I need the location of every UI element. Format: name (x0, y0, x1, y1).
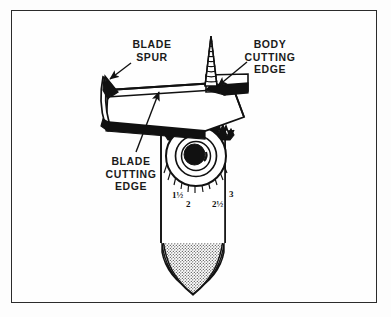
feed-screw-point (205, 36, 218, 86)
leader-blade-spur (110, 63, 131, 79)
scale-mark-0: 1½ (172, 190, 183, 200)
scale-mark-2: 2½ (212, 199, 223, 209)
label-body-cutting-edge-line1: BODY (233, 38, 307, 51)
scale-mark-3: 3 (229, 189, 234, 199)
label-body-cutting-edge: BODY CUTTING EDGE (233, 38, 307, 76)
label-blade-spur-line2: SPUR (116, 51, 188, 64)
label-blade-cutting-edge-line2: CUTTING (93, 168, 169, 181)
expansive-bit-drawing (0, 0, 391, 317)
label-blade-cutting-edge-line3: EDGE (93, 180, 169, 193)
figure-root: BLADE SPUR BODY CUTTING EDGE BLADE CUTTI… (0, 0, 391, 317)
label-body-cutting-edge-line3: EDGE (233, 63, 307, 76)
dial-hub (184, 144, 205, 165)
label-body-cutting-edge-line2: CUTTING (233, 51, 307, 64)
label-blade-cutting-edge: BLADE CUTTING EDGE (93, 155, 169, 193)
scale-mark-1: 2 (186, 199, 191, 209)
label-blade-spur: BLADE SPUR (116, 38, 188, 63)
label-blade-cutting-edge-line1: BLADE (93, 155, 169, 168)
label-blade-spur-line1: BLADE (116, 38, 188, 51)
